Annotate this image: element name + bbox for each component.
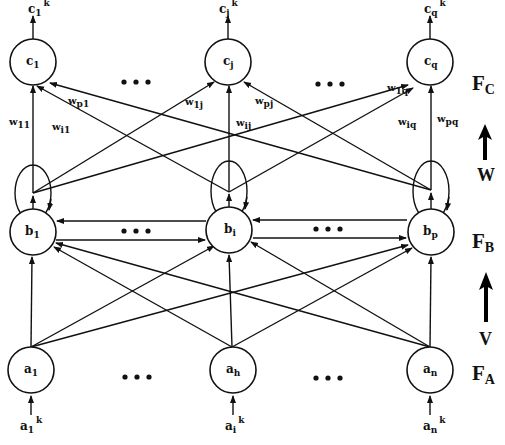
v-connections	[31, 242, 431, 347]
layer-label-fa: FA	[472, 361, 496, 387]
ellipsis-a-right	[313, 375, 342, 380]
ellipsis-c-right	[315, 81, 344, 86]
ellipsis-a-left	[122, 374, 151, 379]
output-cjk: cjk	[219, 0, 239, 18]
ellipsis-b-left	[121, 228, 150, 233]
w-direction-arrow	[478, 124, 492, 160]
matrix-label-v: V	[479, 329, 492, 349]
weight-w11: w11	[8, 116, 30, 130]
weight-wp1: wp1	[67, 95, 89, 109]
v-direction-arrow	[479, 272, 493, 322]
weight-wi1: wi1	[51, 121, 70, 135]
input-a1k: a1k	[20, 415, 43, 435]
weight-w1q: w1q	[386, 82, 409, 96]
input-aik: aik	[225, 415, 245, 435]
weight-wpq: wpq	[436, 113, 459, 127]
layer-label-fc: FC	[472, 71, 495, 97]
ellipsis-c-left	[121, 79, 150, 84]
input-ank: ank	[423, 415, 446, 435]
output-c1k: c1k	[28, 0, 51, 18]
weight-wij: wij	[235, 117, 251, 131]
weight-w1j: w1j	[184, 96, 203, 110]
output-cqk: cqk	[424, 0, 447, 18]
neural-network-diagram: c1 cj cq c1k cjk cqk b1 bi bp a1 ah an a…	[0, 0, 505, 445]
weight-wiq: wiq	[397, 116, 417, 130]
layer-label-fb: FB	[472, 229, 494, 255]
matrix-label-w: W	[477, 165, 495, 185]
w-connections	[33, 82, 431, 193]
ellipsis-b-right	[313, 226, 342, 231]
